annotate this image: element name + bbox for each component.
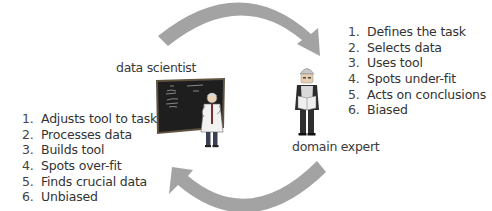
domain-expert-icon [295,69,319,136]
list-item: 6.Biased [348,102,492,118]
list-item-text: Finds crucial data [41,174,147,190]
list-item-number: 3. [22,142,34,158]
list-item-text: Acts on conclusions [367,87,486,103]
list-item: 4.Spots under-fit [348,71,492,87]
list-item: 3.Builds tool [22,142,162,158]
list-item-text: Spots under-fit [367,71,456,87]
list-item-number: 4. [348,71,360,87]
top-arrow-icon [158,2,320,56]
list-item-text: Processes data [41,127,132,143]
list-item-text: Adjusts tool to task [41,111,157,127]
list-item: 1.Adjusts tool to task [22,111,162,127]
list-item: 1.Defines the task [348,24,492,40]
list-item: 2.Selects data [348,40,492,56]
domain-expert-label: domain expert [292,139,379,154]
list-item: 3.Uses tool [348,55,492,71]
list-item-text: Unbiased [41,189,98,205]
list-item: 5.Finds crucial data [22,174,162,190]
data-scientist-list: 1.Adjusts tool to task 2.Processes data … [22,111,162,205]
bottom-arrow-icon [169,161,326,211]
list-item-number: 2. [22,127,34,143]
list-item-text: Spots over-fit [41,158,121,174]
list-item-text: Builds tool [41,142,104,158]
list-item-text: Selects data [367,40,442,56]
list-item-number: 6. [348,102,360,118]
list-item-number: 1. [22,111,34,127]
list-item-number: 2. [348,40,360,56]
list-item: 5.Acts on conclusions [348,87,492,103]
list-item: 6.Unbiased [22,189,162,205]
domain-expert-list: 1.Defines the task 2.Selects data 3.Uses… [348,24,492,118]
list-item-number: 3. [348,55,360,71]
list-item: 4.Spots over-fit [22,158,162,174]
list-item: 2.Processes data [22,127,162,143]
list-item-number: 5. [22,174,34,190]
list-item-number: 6. [22,189,34,205]
list-item-number: 1. [348,24,360,40]
list-item-text: Biased [367,102,408,118]
list-item-number: 4. [22,158,34,174]
list-item-text: Defines the task [367,24,466,40]
list-item-text: Uses tool [367,55,423,71]
data-scientist-label: data scientist [116,60,196,75]
list-item-number: 5. [348,87,360,103]
